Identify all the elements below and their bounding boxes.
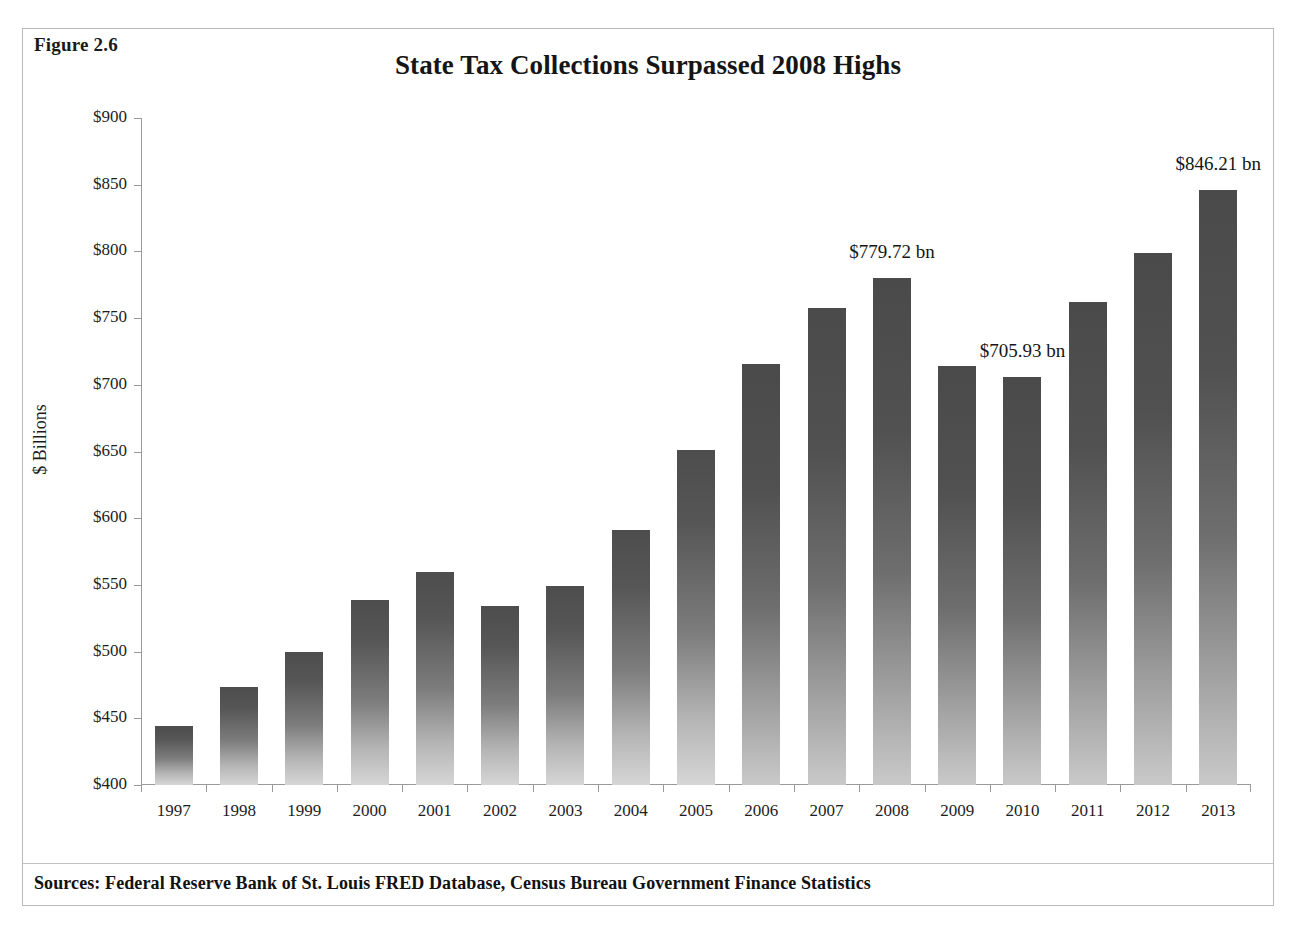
bar[interactable] xyxy=(1134,253,1172,785)
x-axis-tick-label: 2005 xyxy=(663,801,728,821)
x-axis-tick-mark xyxy=(925,785,926,792)
bar-group[interactable]: 2011 xyxy=(1055,118,1120,785)
x-axis-tick-mark xyxy=(533,785,534,792)
y-axis-tick-label: $650 xyxy=(93,441,127,461)
y-axis-tick-mark xyxy=(134,785,141,786)
y-axis-tick-mark xyxy=(134,318,141,319)
y-axis-tick-mark xyxy=(134,385,141,386)
x-axis-tick-mark xyxy=(272,785,273,792)
x-axis-tick-mark xyxy=(1250,785,1251,792)
source-divider xyxy=(23,863,1273,864)
y-axis-tick-label: $550 xyxy=(93,574,127,594)
bar[interactable] xyxy=(220,687,258,785)
y-axis-tick-label: $800 xyxy=(93,240,127,260)
data-label: $846.21 bn xyxy=(1176,153,1262,175)
x-axis-tick-mark xyxy=(794,785,795,792)
bar-group[interactable]: 2013 xyxy=(1186,118,1251,785)
bar-group[interactable]: 1999 xyxy=(272,118,337,785)
bar[interactable] xyxy=(1003,377,1041,785)
y-axis-tick-mark xyxy=(134,718,141,719)
x-axis-tick-label: 2007 xyxy=(794,801,859,821)
bar[interactable] xyxy=(546,586,584,785)
bar[interactable] xyxy=(155,726,193,785)
y-axis-tick-label: $700 xyxy=(93,374,127,394)
bar-group[interactable]: 2000 xyxy=(337,118,402,785)
x-axis-tick-label: 2009 xyxy=(925,801,990,821)
figure-frame: Figure 2.6 State Tax Collections Surpass… xyxy=(22,28,1274,906)
y-axis-tick-mark xyxy=(134,251,141,252)
y-axis-tick-mark xyxy=(134,185,141,186)
x-axis-tick-mark xyxy=(337,785,338,792)
chart-title: State Tax Collections Surpassed 2008 Hig… xyxy=(23,50,1273,81)
bar[interactable] xyxy=(612,530,650,785)
bar[interactable] xyxy=(285,652,323,785)
x-axis-tick-label: 2010 xyxy=(990,801,1055,821)
y-axis-tick-label: $500 xyxy=(93,641,127,661)
x-axis-tick-mark xyxy=(1120,785,1121,792)
bar-group[interactable]: 2010 xyxy=(990,118,1055,785)
y-axis-tick-label: $900 xyxy=(93,107,127,127)
bar[interactable] xyxy=(677,450,715,785)
bar[interactable] xyxy=(808,308,846,785)
bar-group[interactable]: 2009 xyxy=(925,118,990,785)
x-axis-tick-label: 1998 xyxy=(206,801,271,821)
x-axis-tick-label: 2004 xyxy=(598,801,663,821)
y-axis-tick-label: $450 xyxy=(93,707,127,727)
x-axis-tick-mark xyxy=(1186,785,1187,792)
x-axis-tick-label: 2012 xyxy=(1120,801,1185,821)
bar-group[interactable]: 1998 xyxy=(206,118,271,785)
x-axis-tick-label: 2008 xyxy=(859,801,924,821)
x-axis-tick-mark xyxy=(141,785,142,792)
bar[interactable] xyxy=(1199,190,1237,785)
y-axis-tick-mark xyxy=(134,118,141,119)
bar[interactable] xyxy=(416,572,454,785)
bar-group[interactable]: 2004 xyxy=(598,118,663,785)
x-axis-tick-mark xyxy=(1055,785,1056,792)
x-axis-tick-mark xyxy=(990,785,991,792)
bar[interactable] xyxy=(742,364,780,785)
x-axis-tick-label: 2003 xyxy=(533,801,598,821)
x-axis-tick-label: 1999 xyxy=(272,801,337,821)
bar[interactable] xyxy=(938,366,976,785)
y-axis-tick-mark xyxy=(134,452,141,453)
data-label: $705.93 bn xyxy=(980,340,1066,362)
x-axis-tick-label: 1997 xyxy=(141,801,206,821)
y-axis-tick-mark xyxy=(134,652,141,653)
x-axis-tick-label: 2001 xyxy=(402,801,467,821)
y-axis-tick-label: $850 xyxy=(93,174,127,194)
bar-group[interactable]: 2001 xyxy=(402,118,467,785)
bar-group[interactable]: 2008 xyxy=(859,118,924,785)
bar[interactable] xyxy=(1069,302,1107,785)
plot-area: $900$850$800$750$700$650$600$550$500$450… xyxy=(141,118,1251,785)
x-axis-tick-label: 2002 xyxy=(467,801,532,821)
bar-group[interactable]: 1997 xyxy=(141,118,206,785)
bar-group[interactable]: 2012 xyxy=(1120,118,1185,785)
x-axis-tick-label: 2011 xyxy=(1055,801,1120,821)
bar-group[interactable]: 2007 xyxy=(794,118,859,785)
x-axis-tick-label: 2000 xyxy=(337,801,402,821)
bar[interactable] xyxy=(351,600,389,785)
y-axis-title: $ Billions xyxy=(30,360,51,520)
bar[interactable] xyxy=(873,278,911,785)
y-axis-tick-label: $600 xyxy=(93,507,127,527)
y-axis-tick-mark xyxy=(134,518,141,519)
x-axis-tick-mark xyxy=(402,785,403,792)
x-axis-tick-label: 2006 xyxy=(729,801,794,821)
x-axis-tick-label: 2013 xyxy=(1186,801,1251,821)
y-axis-tick-label: $750 xyxy=(93,307,127,327)
x-axis-tick-mark xyxy=(206,785,207,792)
x-axis-tick-mark xyxy=(859,785,860,792)
bar-group[interactable]: 2005 xyxy=(663,118,728,785)
data-label: $779.72 bn xyxy=(849,241,935,263)
x-axis-tick-mark xyxy=(598,785,599,792)
bar-group[interactable]: 2006 xyxy=(729,118,794,785)
x-axis-tick-mark xyxy=(729,785,730,792)
bar-group[interactable]: 2002 xyxy=(467,118,532,785)
bar-group[interactable]: 2003 xyxy=(533,118,598,785)
source-note: Sources: Federal Reserve Bank of St. Lou… xyxy=(34,873,871,894)
x-axis-tick-mark xyxy=(467,785,468,792)
x-axis-tick-mark xyxy=(663,785,664,792)
y-axis-tick-label: $400 xyxy=(93,774,127,794)
bar[interactable] xyxy=(481,606,519,785)
y-axis-tick-mark xyxy=(134,585,141,586)
